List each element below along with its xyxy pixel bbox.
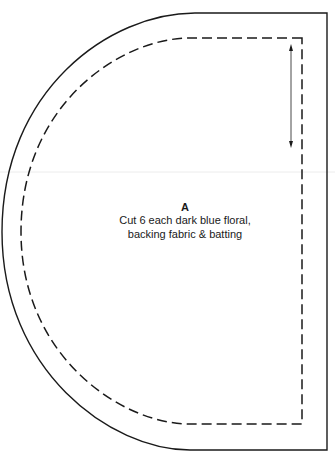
cut-instruction-line-1: Cut 6 each dark blue floral, [0,213,335,227]
piece-label: A [0,201,335,213]
cut-instruction-line-2: backing fabric & batting [0,227,335,241]
grainline-arrow-icon [289,44,293,148]
